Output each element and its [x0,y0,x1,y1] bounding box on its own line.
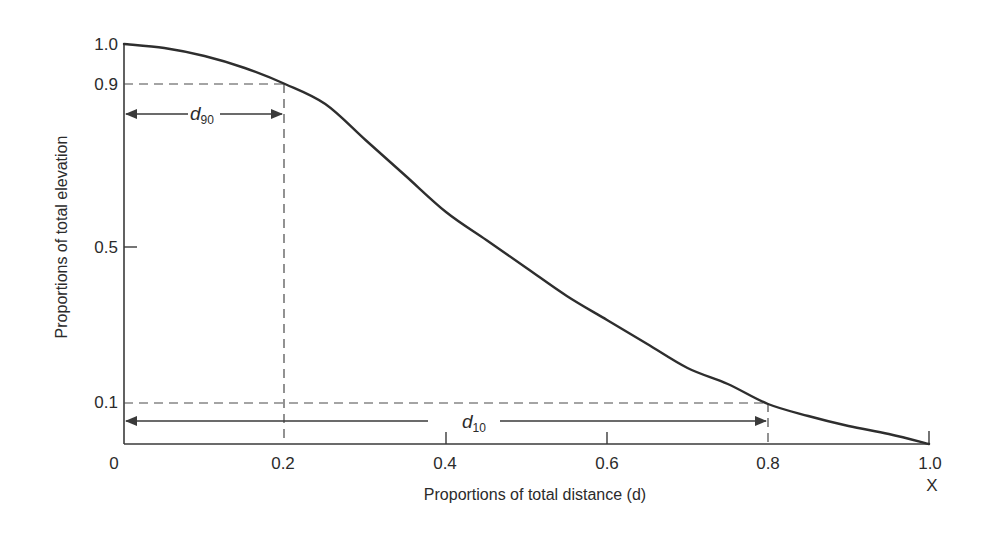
d90-label: d90 [190,103,214,127]
y-tick-labels: 1.0 0.9 0.5 0.1 [94,35,118,412]
x-axis-title: Proportions of total distance (d) [424,486,646,503]
d10-annotation: d10 [126,411,766,435]
guide-lines [124,84,768,444]
y-tick-label: 0.9 [94,75,118,94]
x-end-label: X [926,476,937,495]
d90-annotation: d90 [126,103,282,127]
hypsometric-curve [124,44,929,444]
x-tick-label: 1.0 [918,454,942,473]
x-tick-label: 0.4 [433,454,457,473]
x-tick-label: 0.6 [595,454,619,473]
x-tick-label: 0.2 [271,454,295,473]
d10-label: d10 [462,411,486,435]
hypsometric-chart: d90 d10 1.0 0.9 0.5 0.1 0 0.2 0.4 0.6 0.… [0,0,988,536]
y-tick-label: 0.5 [94,238,118,257]
x-tick-label: 0.8 [756,454,780,473]
axes [124,44,929,444]
y-axis-title: Proportions of total elevation [53,136,70,339]
x-tick-label: 0 [109,454,118,473]
y-tick-label: 0.1 [94,393,118,412]
y-tick-label: 1.0 [94,35,118,54]
